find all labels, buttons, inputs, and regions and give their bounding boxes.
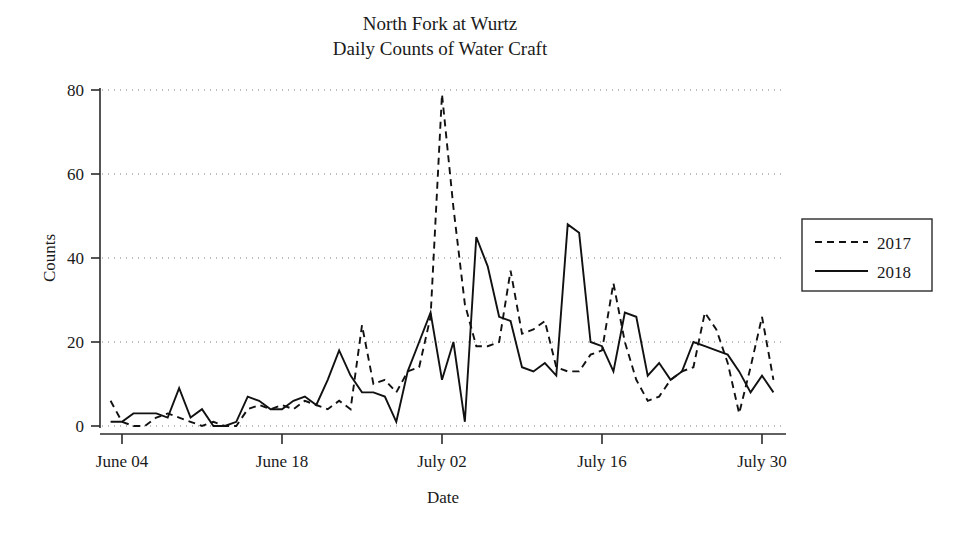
chart-title-line-2: Daily Counts of Water Craft <box>333 38 548 59</box>
y-axis-title: Counts <box>40 234 59 282</box>
y-tick-label-0: 0 <box>76 417 85 436</box>
legend-box <box>802 219 932 291</box>
x-tick-label-3: July 16 <box>577 452 627 471</box>
series-line-2018 <box>111 224 774 426</box>
chart-figure: North Fork at Wurtz Daily Counts of Wate… <box>0 0 968 535</box>
legend-label-2018: 2018 <box>877 263 911 282</box>
x-axis-title: Date <box>427 488 459 507</box>
y-tick-label-20: 20 <box>67 333 84 352</box>
y-tick-label-60: 60 <box>67 165 84 184</box>
chart-title-line-1: North Fork at Wurtz <box>363 13 518 34</box>
x-tick-label-1: June 18 <box>256 452 308 471</box>
x-tick-label-2: July 02 <box>417 452 467 471</box>
y-tick-label-40: 40 <box>67 249 84 268</box>
line-chart: North Fork at Wurtz Daily Counts of Wate… <box>0 0 968 535</box>
x-tick-label-0: June 04 <box>96 452 149 471</box>
x-axis-ticks: June 04June 18July 02July 16July 30 <box>96 434 787 471</box>
x-tick-label-4: July 30 <box>737 452 787 471</box>
y-axis-ticks: 020406080 <box>67 81 100 436</box>
y-tick-label-80: 80 <box>67 81 84 100</box>
legend: 2017 2018 <box>802 219 932 291</box>
legend-label-2017: 2017 <box>877 234 912 253</box>
